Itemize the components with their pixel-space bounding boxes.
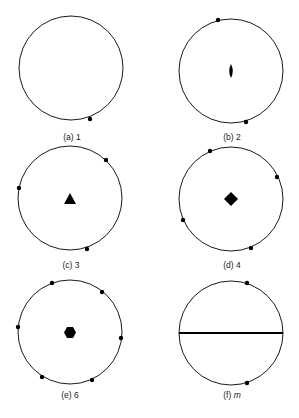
- stereographic-projection-figure: (a) 1 (b) 2 (c) 3 (d) 4 (e) 6: [0, 0, 299, 418]
- pole-dot: [181, 218, 185, 222]
- panel-e: (e) 6: [16, 280, 123, 400]
- pole-dot: [208, 149, 212, 153]
- pole-dot: [16, 325, 20, 329]
- pole-dot: [275, 175, 279, 179]
- panel-c-label: (c) 3: [63, 260, 80, 270]
- panel-a: (a) 1: [19, 16, 123, 142]
- pole-dot: [88, 117, 92, 121]
- pole-dot: [90, 378, 94, 382]
- three-fold-axis-icon: [64, 193, 76, 204]
- pole-dot: [40, 375, 44, 379]
- six-fold-axis-icon: [64, 327, 76, 338]
- panel-a-label: (a) 1: [63, 132, 81, 142]
- panel-d: (d) 4: [179, 147, 283, 270]
- two-fold-axis-icon: [229, 64, 233, 78]
- panel-f: (f) m: [179, 281, 283, 400]
- pole-dot: [17, 186, 21, 190]
- pole-dot: [100, 290, 104, 294]
- pole-dot: [85, 247, 89, 251]
- panel-d-label: (d) 4: [223, 260, 241, 270]
- pole-dot: [50, 281, 54, 285]
- panel-b: (b) 2: [179, 18, 283, 142]
- pole-dot: [245, 381, 249, 385]
- four-fold-axis-icon: [224, 192, 238, 206]
- panel-c: (c) 3: [17, 146, 122, 270]
- pole-dot: [245, 281, 249, 285]
- pole-dot: [244, 120, 248, 124]
- pole-dot: [119, 336, 123, 340]
- panel-b-label: (b) 2: [223, 132, 241, 142]
- pole-dot: [249, 246, 253, 250]
- projection-circle: [19, 16, 123, 120]
- panel-f-label: (f) m: [223, 390, 240, 400]
- pole-dot: [216, 18, 220, 22]
- pole-dot: [104, 158, 108, 162]
- panel-e-label: (e) 6: [61, 390, 79, 400]
